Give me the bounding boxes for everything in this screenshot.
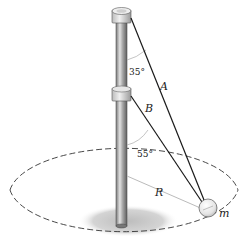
radius-label: R xyxy=(154,186,163,199)
angle-label-a: 35° xyxy=(129,67,145,77)
angle-arc-b xyxy=(127,130,148,145)
vertical-pole xyxy=(116,16,127,226)
middle-collar-top xyxy=(112,86,131,92)
pole-bottom xyxy=(116,224,127,228)
angle-arc-a xyxy=(127,50,146,60)
top-collar-hole xyxy=(117,9,127,13)
diagram-canvas: 35° 55° A B R m xyxy=(0,0,244,236)
cord-a xyxy=(131,18,206,205)
angle-label-b: 55° xyxy=(137,149,153,159)
mass-label: m xyxy=(219,207,229,220)
pole-cord-diagram: 35° 55° A B R m xyxy=(0,0,244,236)
radius-line xyxy=(127,176,205,210)
cord-label-a: A xyxy=(159,80,168,93)
cord-label-b: B xyxy=(144,102,153,115)
